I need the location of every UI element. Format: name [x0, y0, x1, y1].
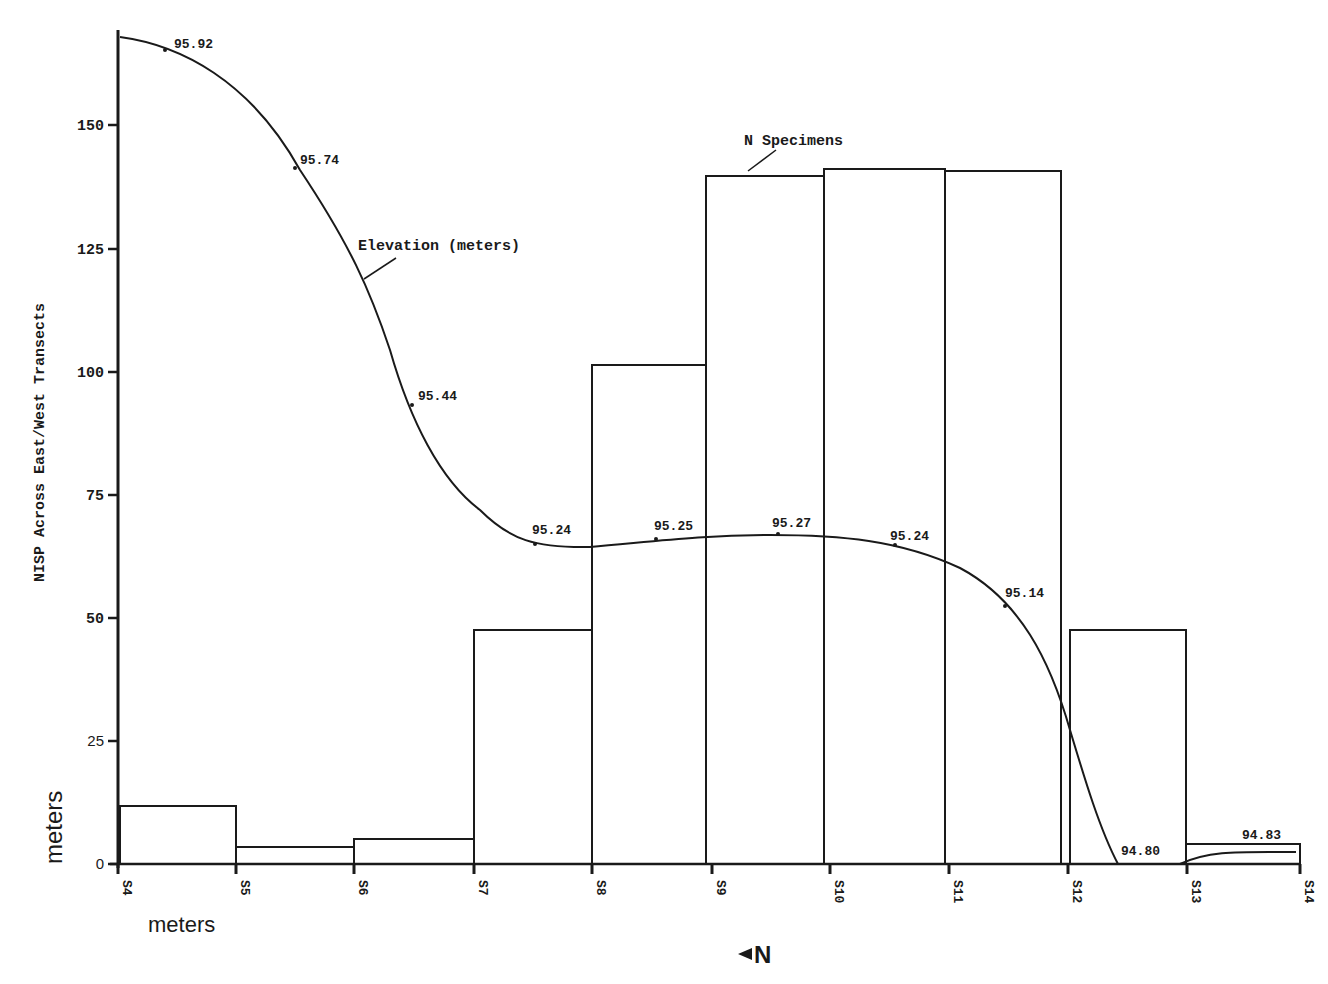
x-tick-label: S8: [593, 880, 608, 896]
elevation-points: [163, 48, 1007, 608]
x-tick-label: S5: [237, 880, 252, 896]
specimens-callout: N Specimens: [744, 133, 843, 150]
y-axis-title: NISP Across East/West Transects: [32, 303, 49, 582]
x-tick-labels: S4 S5 S6 S7 S8 S9 S10 S11 S12 S13 S14: [119, 880, 1316, 904]
x-tick-label: S14: [1301, 880, 1316, 904]
x-ticks: [118, 864, 1300, 874]
bar-s6-s7: [354, 839, 474, 864]
elevation-label: 94.83: [1242, 828, 1281, 843]
bar-s5-s6: [236, 847, 354, 864]
chart-canvas: 0 25 50 75 100 125 150 NISP Across East/…: [0, 0, 1328, 984]
north-indicator: N: [738, 941, 771, 968]
y-tick-label: 150: [77, 118, 104, 135]
north-label: N: [754, 941, 771, 968]
elevation-label: 95.92: [174, 37, 213, 52]
y-tick-label: 75: [86, 488, 104, 505]
elevation-label: 95.74: [300, 153, 339, 168]
elevation-label: 95.14: [1005, 586, 1044, 601]
elevation-label: 95.27: [772, 516, 811, 531]
x-tick-label: S10: [831, 880, 846, 904]
side-meters-label: meters: [40, 791, 67, 864]
x-tick-label: S13: [1188, 880, 1203, 904]
bar-s11-s12: [945, 171, 1061, 864]
specimens-callout-leader: [748, 150, 776, 171]
y-tick-label: 125: [77, 242, 104, 259]
x-tick-label: S4: [119, 880, 134, 896]
bar-s12-s13: [1070, 630, 1186, 864]
x-tick-label: S11: [950, 880, 965, 904]
bar-s8-s9: [592, 365, 706, 864]
x-tick-label: S6: [355, 880, 370, 896]
x-tick-label: S9: [713, 880, 728, 896]
x-tick-label: S7: [475, 880, 490, 896]
y-tick-label: 0: [96, 855, 104, 872]
x-tick-label: S12: [1069, 880, 1084, 904]
elevation-label: 94.80: [1121, 844, 1160, 859]
elevation-label: 95.44: [418, 389, 457, 404]
elevation-callout: Elevation (meters): [358, 238, 520, 255]
x-axis-title: meters: [148, 912, 215, 937]
elevation-label: 95.24: [890, 529, 929, 544]
bar-s10-s11: [824, 169, 945, 864]
bar-s7-s8: [474, 630, 592, 864]
elevation-callout-leader: [364, 258, 396, 279]
elevation-label: 95.25: [654, 519, 693, 534]
y-tick-labels: 0 25 50 75 100 125 150: [77, 118, 104, 872]
y-tick-label: 100: [77, 365, 104, 382]
y-tick-label: 25: [87, 732, 104, 749]
elevation-curve: [120, 37, 1296, 864]
bar-s13-s14: [1186, 844, 1300, 864]
elevation-labels: 95.92 95.74 95.44 95.24 95.25 95.27 95.2…: [174, 37, 1281, 859]
specimen-bars: [120, 169, 1300, 864]
y-tick-label: 50: [86, 611, 104, 628]
elevation-label: 95.24: [532, 523, 571, 538]
north-arrow-icon: [738, 948, 752, 960]
bar-s4-s5: [120, 806, 236, 864]
